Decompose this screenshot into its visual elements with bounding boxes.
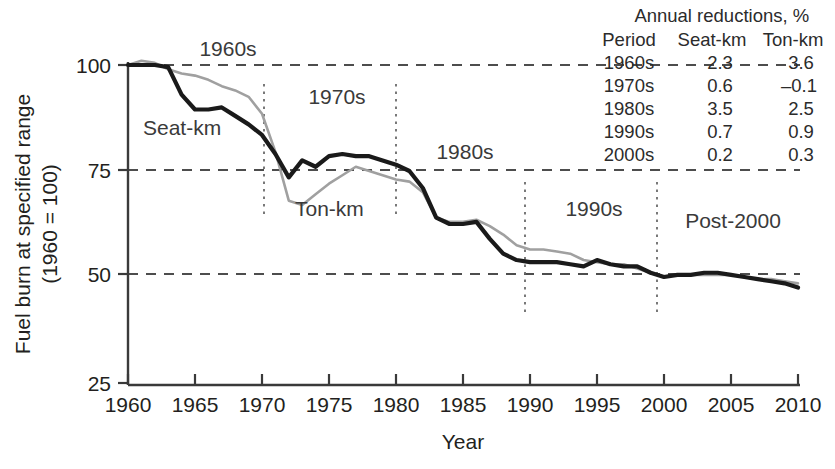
table-cell-period: 1980s (604, 98, 654, 119)
y-axis-title-line1: Fuel burn at specified range (11, 94, 34, 354)
table-cell-period: 2000s (604, 144, 654, 165)
table-cell-ton-km: –0.1 (781, 75, 817, 96)
y-tick-label-25: 25 (88, 372, 111, 395)
x-tick-labels: 1960 1965 1970 1975 1980 1985 1990 1995 … (105, 393, 822, 416)
x-tick-label-1980: 1980 (373, 393, 420, 416)
x-tick-label-1965: 1965 (172, 393, 219, 416)
table-cell-seat-km: 0.7 (707, 121, 733, 142)
table-row: 1970s 0.6 –0.1 (604, 75, 817, 96)
x-axis-title: Year (442, 430, 484, 453)
x-tick-label-1990: 1990 (507, 393, 554, 416)
series-label-seat-km: Seat-km (143, 116, 221, 139)
table-cell-ton-km: 0.3 (788, 144, 814, 165)
period-label-1970s: 1970s (308, 85, 365, 108)
period-label-post-2000: Post-2000 (685, 209, 781, 232)
x-tick-label-1985: 1985 (440, 393, 487, 416)
x-tick-label-1975: 1975 (306, 393, 353, 416)
table-cell-ton-km: 3.6 (788, 52, 814, 73)
table-cell-seat-km: 0.2 (707, 144, 733, 165)
table-cell-period: 1970s (604, 75, 654, 96)
fuel-burn-line-chart: 100 75 50 25 1960 1965 1970 1975 1980 19… (0, 0, 835, 469)
x-tick-label-2000: 2000 (641, 393, 688, 416)
x-tick-label-2010: 2010 (775, 393, 822, 416)
x-tick-label-1960: 1960 (105, 393, 152, 416)
x-tick-label-2005: 2005 (708, 393, 755, 416)
period-label-1990s: 1990s (565, 197, 622, 220)
x-tick-label-1970: 1970 (239, 393, 286, 416)
x-tick-label-1995: 1995 (574, 393, 621, 416)
period-label-1960s: 1960s (199, 37, 256, 60)
table-cell-period: 1990s (604, 121, 654, 142)
series-label-ton-km: Ton-km (295, 197, 364, 220)
table-cell-ton-km: 0.9 (788, 121, 814, 142)
table-cell-seat-km: 0.6 (707, 75, 733, 96)
chart-figure: 100 75 50 25 1960 1965 1970 1975 1980 19… (0, 0, 835, 469)
annual-reductions-table: Annual reductions, % Period Seat-km Ton-… (602, 5, 823, 165)
table-title-main: Annual reductions, (634, 5, 787, 26)
table-column-header-ton-km: Ton-km (763, 29, 824, 50)
period-label-1980s: 1980s (436, 140, 493, 163)
table-column-header-seat-km: Seat-km (678, 29, 747, 50)
y-tick-label-75: 75 (88, 159, 111, 182)
table-cell-ton-km: 2.5 (788, 98, 814, 119)
table-column-header-period: Period (602, 29, 655, 50)
table-cell-seat-km: 3.5 (707, 98, 733, 119)
y-tick-label-50: 50 (88, 263, 111, 286)
table-cell-period: 1960s (604, 52, 654, 73)
y-axis-title-line2: (1960 = 100) (38, 164, 61, 284)
y-tick-label-100: 100 (76, 54, 111, 77)
table-title-unit: % (793, 5, 809, 26)
table-cell-seat-km: 2.3 (707, 52, 733, 73)
